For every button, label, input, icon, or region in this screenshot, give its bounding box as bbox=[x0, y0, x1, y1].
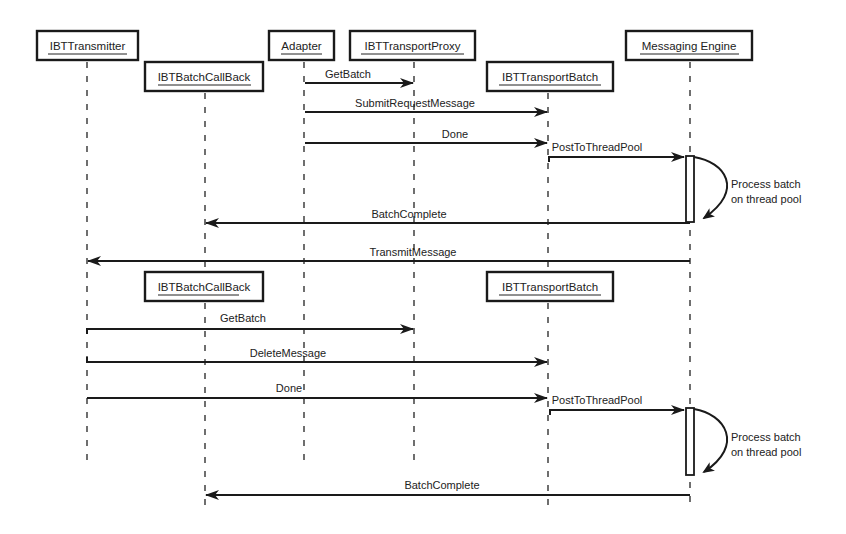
activation-bar-1 bbox=[686, 156, 694, 222]
participant-adapter: Adapter bbox=[269, 31, 334, 60]
participant-ibttransmitter: IBTTransmitter bbox=[37, 31, 138, 60]
participant-label: Adapter bbox=[281, 40, 321, 52]
participant-label: IBTTransportProxy bbox=[364, 40, 460, 52]
participant-ibtbatchcallback: IBTBatchCallBack bbox=[145, 62, 263, 91]
message-label: TransmitMessage bbox=[369, 246, 456, 258]
message-label: PostToThreadPool bbox=[552, 394, 643, 406]
message-label: PostToThreadPool bbox=[552, 141, 643, 153]
note-process-batch-line1: Process batch bbox=[731, 431, 801, 443]
message-done-1: Done bbox=[305, 128, 547, 143]
participant-label: IBTTransmitter bbox=[50, 40, 126, 52]
message-label: GetBatch bbox=[325, 68, 371, 80]
message-label: GetBatch bbox=[220, 312, 266, 324]
message-posttothreadpool-2: PostToThreadPool bbox=[550, 394, 684, 415]
message-label: BatchComplete bbox=[371, 208, 446, 220]
message-label: Done bbox=[442, 128, 468, 140]
message-label: DeleteMessage bbox=[250, 347, 326, 359]
note-process-batch-line2: on thread pool bbox=[731, 446, 801, 458]
message-getbatch-1: GetBatch bbox=[305, 68, 413, 83]
participant-messaging-engine: Messaging Engine bbox=[626, 31, 752, 60]
message-transmitmessage: TransmitMessage bbox=[88, 246, 690, 261]
participant-ibttransportproxy: IBTTransportProxy bbox=[350, 31, 475, 60]
message-deletemessage: DeleteMessage bbox=[87, 347, 547, 362]
message-label: Done bbox=[276, 382, 302, 394]
activation-bar-2 bbox=[686, 408, 694, 475]
participant-ibttransportbatch: IBTTransportBatch bbox=[487, 62, 613, 91]
self-process-arrow-1 bbox=[694, 157, 727, 218]
note-process-batch-line2: on thread pool bbox=[731, 193, 801, 205]
message-batchcomplete-1: BatchComplete bbox=[206, 208, 690, 223]
participant-label: IBTBatchCallBack bbox=[158, 71, 251, 83]
self-process-arrow-2 bbox=[694, 409, 727, 472]
message-label: SubmitRequestMessage bbox=[355, 97, 475, 109]
message-done-2: Done bbox=[87, 382, 547, 398]
participant-ibtbatchcallback-2: IBTBatchCallBack bbox=[145, 272, 263, 301]
participant-ibttransportbatch-2: IBTTransportBatch bbox=[487, 272, 613, 301]
note-process-batch-line1: Process batch bbox=[731, 178, 801, 190]
message-submitrequestmessage: SubmitRequestMessage bbox=[305, 97, 547, 112]
sequence-diagram: IBTTransmitter IBTBatchCallBack Adapter … bbox=[0, 0, 846, 534]
message-label: BatchComplete bbox=[404, 479, 479, 491]
message-posttothreadpool-1: PostToThreadPool bbox=[549, 141, 684, 162]
participant-label: IBTBatchCallBack bbox=[158, 281, 251, 293]
participant-label: IBTTransportBatch bbox=[502, 281, 598, 293]
message-getbatch-2: GetBatch bbox=[87, 312, 413, 334]
participant-label: IBTTransportBatch bbox=[502, 71, 598, 83]
participant-label: Messaging Engine bbox=[642, 40, 737, 52]
message-batchcomplete-2: BatchComplete bbox=[206, 479, 690, 495]
